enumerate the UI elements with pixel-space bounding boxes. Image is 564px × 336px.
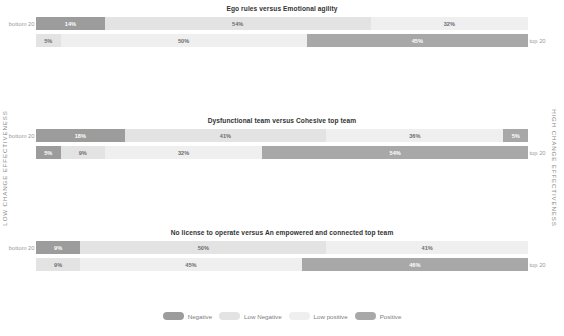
row-label-top-20: top 20 — [529, 38, 545, 44]
panel-rows: bottom 2018%41%36%5%top 205%9%32%54% — [36, 129, 528, 165]
bar-segment: 45% — [80, 258, 301, 271]
row-label-bottom-20: bottom 20 — [9, 21, 35, 27]
bar-segment: 41% — [326, 241, 528, 254]
legend-label: Low Negative — [244, 313, 282, 320]
bar-segment: 9% — [61, 146, 105, 159]
row-label-top-20: top 20 — [529, 150, 545, 156]
row-label-top-20: top 20 — [529, 262, 545, 268]
bar-segment: 54% — [105, 17, 371, 30]
legend-item: Positive — [355, 312, 402, 320]
bar-segment: 5% — [36, 34, 61, 47]
stacked-bar: 18%41%36%5% — [36, 129, 528, 142]
bar-segment: 46% — [302, 258, 528, 271]
bar-segment: 5% — [36, 146, 61, 159]
bar-segment: 45% — [307, 34, 528, 47]
bar-segment: 5% — [503, 129, 528, 142]
bar-segment: 54% — [262, 146, 528, 159]
stacked-bar: 5%50%45% — [36, 34, 528, 47]
legend-swatch-icon — [163, 312, 184, 320]
stacked-bar: 14%54%32% — [36, 17, 528, 30]
row-label-bottom-20: bottom 20 — [9, 133, 35, 139]
panel-title: No license to operate versus An empowere… — [0, 229, 564, 236]
bar-segment: 14% — [36, 17, 105, 30]
bar-segment: 18% — [36, 129, 125, 142]
legend-item: Low Negative — [219, 312, 282, 320]
panel-title: Dysfunctional team versus Cohesive top t… — [0, 117, 564, 124]
bar-segment: 50% — [80, 241, 326, 254]
bar-segment: 50% — [61, 34, 307, 47]
chart-row: top 209%45%46% — [36, 258, 528, 271]
bar-segment: 36% — [326, 129, 503, 142]
chart-row: top 205%50%45% — [36, 34, 528, 47]
legend-swatch-icon — [289, 312, 310, 320]
chart-row: bottom 209%50%41% — [36, 241, 528, 254]
chart-root: LOW CHANGE EFFECTIVENESS HIGH CHANGE EFF… — [0, 0, 564, 336]
chart-row: bottom 2014%54%32% — [36, 17, 528, 30]
bar-segment: 32% — [371, 17, 528, 30]
stacked-bar: 9%50%41% — [36, 241, 528, 254]
bar-segment: 41% — [125, 129, 327, 142]
chart-legend: NegativeLow NegativeLow positivePositive — [0, 312, 564, 320]
legend-swatch-icon — [219, 312, 240, 320]
chart-panel: Dysfunctional team versus Cohesive top t… — [0, 114, 564, 170]
stacked-bar: 5%9%32%54% — [36, 146, 528, 159]
chart-panel: No license to operate versus An empowere… — [0, 226, 564, 282]
legend-label: Positive — [380, 313, 402, 320]
chart-panel: Ego rules versus Emotional agilitybottom… — [0, 2, 564, 58]
legend-item: Low positive — [289, 312, 348, 320]
chart-panels: Ego rules versus Emotional agilitybottom… — [0, 0, 564, 280]
panel-rows: bottom 2014%54%32%top 205%50%45% — [36, 17, 528, 53]
chart-row: top 205%9%32%54% — [36, 146, 528, 159]
legend-swatch-icon — [355, 312, 376, 320]
row-label-bottom-20: bottom 20 — [9, 245, 35, 251]
legend-item: Negative — [163, 312, 212, 320]
legend-label: Negative — [188, 313, 212, 320]
panel-title: Ego rules versus Emotional agility — [0, 5, 564, 12]
panel-rows: bottom 209%50%41%top 209%45%46% — [36, 241, 528, 277]
bar-segment: 9% — [36, 241, 80, 254]
legend-label: Low positive — [314, 313, 348, 320]
bar-segment: 9% — [36, 258, 80, 271]
bar-segment: 32% — [105, 146, 262, 159]
stacked-bar: 9%45%46% — [36, 258, 528, 271]
chart-row: bottom 2018%41%36%5% — [36, 129, 528, 142]
